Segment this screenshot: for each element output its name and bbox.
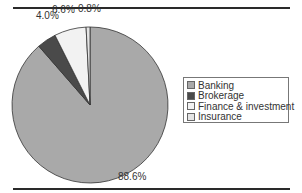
legend-item-finance: Finance & investment (187, 101, 285, 112)
legend-item-insurance: Insurance (187, 112, 285, 123)
label-insurance: 0.8% (78, 3, 101, 14)
label-finance: 6.6% (52, 4, 75, 15)
legend-swatch-icon (187, 81, 195, 89)
legend-swatch-icon (187, 102, 195, 110)
label-banking: 88.6% (118, 171, 146, 182)
bottom-rule (13, 188, 290, 190)
legend-swatch-icon (187, 92, 195, 100)
legend-item-brokerage: Brokerage (187, 91, 285, 102)
legend: Banking Brokerage Finance & investment I… (183, 77, 289, 123)
legend-swatch-icon (187, 113, 195, 121)
legend-item-banking: Banking (187, 80, 285, 91)
